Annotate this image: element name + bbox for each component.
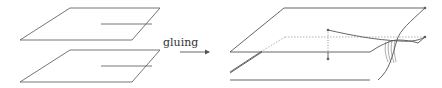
gluing-arrow: gluing xyxy=(163,36,210,55)
gluing-diagram: gluing xyxy=(0,0,442,88)
left-lower-sheet xyxy=(20,50,160,82)
left-upper-sheet xyxy=(20,8,160,40)
arrow-head-icon xyxy=(205,50,210,55)
arrow-label: gluing xyxy=(163,36,198,49)
glued-surface xyxy=(230,7,426,80)
